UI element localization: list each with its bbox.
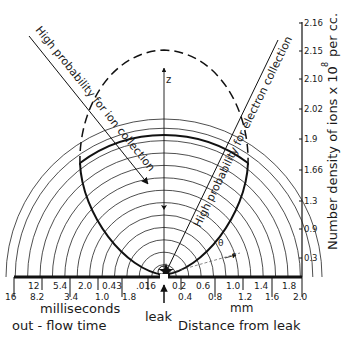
svg-text:2.02: 2.02 bbox=[304, 104, 323, 114]
svg-text:2.0: 2.0 bbox=[78, 281, 93, 291]
theta-label: θ bbox=[218, 238, 224, 248]
distance-unit-label: mm bbox=[230, 301, 253, 315]
svg-text:2.15: 2.15 bbox=[304, 46, 323, 56]
svg-text:1.8: 1.8 bbox=[122, 292, 137, 302]
right-axis-tick-labels: 2.16 2.15 2.10 2.02 1.9 1.66 1.3 0.9 0.3 bbox=[304, 18, 323, 263]
svg-text:per cc.: per cc. bbox=[325, 13, 340, 57]
time-axis-title: out - flow time bbox=[12, 318, 107, 333]
svg-text:5.4: 5.4 bbox=[53, 281, 68, 291]
svg-text:1.9: 1.9 bbox=[304, 134, 318, 144]
time-unit-label: milliseconds bbox=[40, 301, 120, 316]
svg-text:1.8: 1.8 bbox=[282, 281, 297, 291]
svg-text:2.16: 2.16 bbox=[304, 18, 323, 28]
time-tick-labels: 12 5.4 2.0 0.43 .016 16 8.2 3.4 1.0 1.8 bbox=[5, 281, 156, 302]
z-axis-label: z bbox=[166, 74, 171, 85]
leak-label: leak bbox=[145, 309, 173, 324]
svg-text:0.3: 0.3 bbox=[304, 253, 318, 263]
leak-gap bbox=[160, 274, 168, 280]
ion-collection-arrow bbox=[29, 36, 148, 184]
svg-text:1.4: 1.4 bbox=[254, 281, 269, 291]
distance-axis-title: Distance from leak bbox=[178, 318, 301, 333]
electron-collection-line bbox=[167, 40, 278, 270]
svg-text:0.6: 0.6 bbox=[196, 281, 211, 291]
svg-text:.016: .016 bbox=[136, 281, 156, 291]
svg-text:0.9: 0.9 bbox=[304, 224, 318, 234]
ion-collection-label: High probability for ion collection bbox=[33, 24, 158, 174]
electron-collection-label: High probability for electron collection bbox=[191, 34, 295, 229]
svg-text:2.0: 2.0 bbox=[293, 292, 308, 302]
svg-text:8: 8 bbox=[321, 62, 330, 67]
svg-text:0.2: 0.2 bbox=[172, 281, 186, 291]
svg-text:12: 12 bbox=[28, 281, 39, 291]
svg-text:Number density of ions x 10: Number density of ions x 10 bbox=[325, 66, 340, 250]
right-axis-title: Number density of ions x 10 8 per cc. bbox=[321, 13, 340, 250]
svg-text:1.3: 1.3 bbox=[304, 196, 318, 206]
svg-text:1.6: 1.6 bbox=[265, 292, 280, 302]
svg-text:2.10: 2.10 bbox=[304, 74, 323, 84]
svg-text:1.66: 1.66 bbox=[304, 165, 323, 175]
svg-text:16: 16 bbox=[5, 292, 17, 302]
svg-text:1.0: 1.0 bbox=[226, 281, 241, 291]
distance-tick-labels: 0.2 0.6 1.0 1.4 1.8 0.4 0.8 1.2 1.6 2.0 bbox=[172, 281, 308, 302]
svg-text:0.4: 0.4 bbox=[178, 292, 193, 302]
svg-text:0.8: 0.8 bbox=[208, 292, 223, 302]
ion-density-diagram: z High probability for ion collection Hi… bbox=[0, 0, 343, 339]
r-label: r bbox=[232, 250, 236, 260]
svg-text:0.43: 0.43 bbox=[102, 281, 122, 291]
